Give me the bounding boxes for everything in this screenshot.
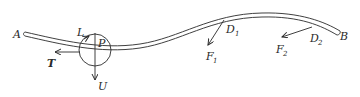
label-f1-sub: 1: [213, 57, 217, 65]
force-f2-arrow: [282, 27, 312, 37]
label-a: A: [12, 28, 21, 41]
label-l: L: [76, 26, 84, 39]
label-t: T: [47, 57, 56, 70]
label-b: B: [339, 30, 348, 43]
label-d1-sub: 1: [235, 30, 239, 38]
rod-lower-edge: [25, 17, 337, 50]
label-u: U: [98, 80, 108, 93]
label-d1: D: [225, 23, 235, 36]
label-d2-sub: 2: [317, 39, 323, 47]
rod-diagram: A B L P T U D 1 F 1 D 2 F 2: [0, 0, 360, 97]
label-f2-sub: 2: [282, 50, 288, 58]
rod: [24, 13, 341, 50]
rod-upper-edge: [25, 13, 340, 46]
label-p: P: [97, 37, 106, 50]
rod-end-a: [24, 32, 26, 36]
